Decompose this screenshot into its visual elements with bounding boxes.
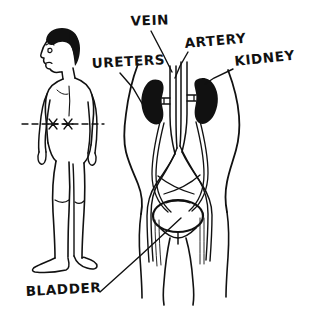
person-chest-line <box>57 90 68 94</box>
bladder-dome-crease <box>166 201 190 203</box>
person-eye <box>48 48 52 52</box>
person-neck <box>62 68 75 79</box>
person-leg-front-inner <box>68 162 70 257</box>
bladder-leader-line <box>100 218 181 292</box>
bladder <box>153 200 203 232</box>
renal-vessel-left <box>162 98 170 104</box>
person-leg-back-inner <box>73 164 74 256</box>
person-hair-back <box>69 32 80 66</box>
urinary-system-diagram: VEIN ARTERY KIDNEY URETERS BLADDER <box>0 0 310 320</box>
ureter-left-edge <box>156 123 171 212</box>
ureter-left <box>152 122 168 212</box>
kidney-mark-x-left <box>48 119 58 129</box>
person-hip <box>48 143 56 161</box>
person-spine-line <box>69 86 70 116</box>
person-mouth <box>46 62 52 63</box>
vessel-strand-left-a <box>155 220 157 266</box>
aorta-left-wall <box>180 62 181 146</box>
kidney-right <box>194 78 217 124</box>
person-leg-front-outer <box>53 161 56 258</box>
label-ureters: URETERS <box>91 51 165 71</box>
person-knee-back <box>75 201 84 203</box>
kidney-left <box>141 80 163 125</box>
person-torso-back <box>75 78 94 145</box>
person-leg-back-outer <box>82 163 85 258</box>
person-foot-front <box>33 258 70 272</box>
thigh-right-inner <box>186 238 194 305</box>
renal-vessel-right <box>187 95 196 101</box>
urinary-anatomy <box>124 62 239 305</box>
label-vein: VEIN <box>130 11 169 28</box>
kidney-mark-x-right <box>63 119 73 129</box>
label-bladder: BLADDER <box>25 279 101 299</box>
abdomen-outline-right <box>226 70 240 212</box>
crossing-vessel-left <box>158 176 194 194</box>
thigh-right-outer <box>226 212 229 297</box>
vena-cava-left-wall <box>170 66 175 154</box>
label-artery: ARTERY <box>184 30 247 51</box>
person-head <box>41 41 62 72</box>
vena-cava-right-wall <box>176 66 177 148</box>
person-knee-front <box>55 200 69 202</box>
abdomen-outline-left <box>124 64 142 214</box>
diagram-canvas: VEIN ARTERY KIDNEY URETERS BLADDER <box>0 0 310 320</box>
aorta-right-wall <box>182 62 187 152</box>
person-foot-back <box>74 256 97 269</box>
thigh-left-inner <box>163 238 170 305</box>
person-arm-back-inner <box>88 102 90 153</box>
person-hand-front <box>38 152 46 164</box>
label-kidney: KIDNEY <box>234 47 296 69</box>
kidney-leader-line <box>205 69 233 84</box>
